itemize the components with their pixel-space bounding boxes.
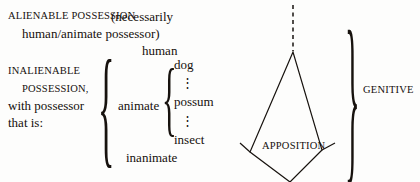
apposition-label: APPOSITION bbox=[262, 141, 325, 152]
left-vertex-tick bbox=[240, 143, 250, 152]
apposition-kite-shape bbox=[250, 52, 322, 182]
figure-canvas: ALIENABLE POSSESSION (necessarily human/… bbox=[0, 0, 420, 182]
genitive-brace: } bbox=[345, 3, 360, 182]
genitive-label: GENITIVE bbox=[363, 85, 414, 96]
